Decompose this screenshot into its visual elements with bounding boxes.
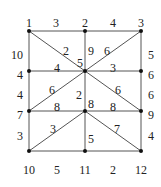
node-label: 8: [88, 97, 94, 111]
node-7-dot: [27, 109, 31, 113]
edge-weight-label: 2: [110, 163, 116, 177]
node-label: 2: [82, 16, 88, 30]
node-6-dot: [139, 69, 143, 73]
edge-weight-label: 8: [54, 100, 60, 114]
edge-weight-label: 3: [110, 61, 116, 75]
edge-weight-label: 8: [110, 100, 116, 114]
edge-weight-label: 10: [11, 48, 23, 62]
node-4-dot: [27, 69, 31, 73]
edge-weight-label: 2: [76, 88, 82, 102]
node-label: 4: [17, 68, 23, 82]
node-5-dot: [83, 69, 87, 73]
node-label: 9: [148, 108, 154, 122]
edge-weight-label: 6: [49, 83, 55, 97]
edge-weight-label: 7: [114, 122, 120, 136]
node-label: 7: [17, 108, 23, 122]
edge-weight-label: 6: [104, 44, 110, 58]
edge-weight-label: 5: [88, 132, 94, 146]
node-label: 12: [135, 163, 147, 177]
edge-weight-label: 9: [88, 44, 94, 58]
edge-weight-label: 4: [54, 61, 60, 75]
edge-weight-label: 6: [115, 83, 121, 97]
node-label: 6: [148, 68, 154, 82]
node-label: 11: [79, 163, 91, 177]
node-label: 1: [26, 16, 32, 30]
node-11-dot: [83, 149, 87, 153]
edge-weight-label: 6: [148, 88, 154, 102]
edge-weight-label: 4: [148, 129, 154, 143]
node-label: 3: [138, 16, 144, 30]
edge-weight-label: 3: [53, 16, 59, 30]
edge-8-10: [29, 111, 85, 151]
node-label: 5: [77, 56, 83, 70]
node-label: 10: [23, 163, 35, 177]
edge-weight-label: 4: [17, 88, 23, 102]
node-8-dot: [83, 109, 87, 113]
node-12-dot: [139, 149, 143, 153]
edge-weight-label: 2: [63, 44, 69, 58]
edge-weight-label: 3: [17, 129, 23, 143]
edge-weight-label: 5: [54, 163, 60, 177]
node-9-dot: [139, 109, 143, 113]
weighted-graph-diagram: 341052964346626883435752 123456789101112: [0, 0, 161, 187]
edge-weight-label: 4: [110, 16, 116, 30]
graph-edges: [29, 31, 141, 151]
edge-weight-labels: 341052964346626883435752: [11, 16, 154, 177]
node-10-dot: [27, 149, 31, 153]
edge-weight-label: 5: [148, 48, 154, 62]
edge-weight-label: 3: [50, 122, 56, 136]
